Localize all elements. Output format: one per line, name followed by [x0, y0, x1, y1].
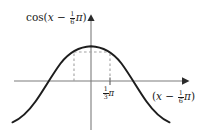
x-axis-label: (x − 16π)	[152, 90, 195, 105]
x-label-minus: −	[162, 90, 177, 102]
dashed-guides	[74, 52, 110, 81]
y-label-minus: −	[54, 11, 69, 23]
x-axis	[14, 77, 190, 84]
y-label-fraction: 16	[70, 11, 76, 26]
y-axis	[87, 14, 94, 130]
x-label-pi: π	[184, 90, 191, 102]
y-label-suffix: )	[83, 11, 87, 23]
y-label-pi: π	[76, 11, 83, 23]
x-label-fraction-denominator: 6	[178, 98, 184, 105]
cosine-graph-figure: cos(x − 16π) (x − 16π) 13π	[0, 0, 207, 136]
y-label-fraction-denominator: 6	[70, 19, 76, 26]
y-axis-arrowhead	[87, 14, 94, 21]
x-label-fraction: 16	[178, 90, 184, 105]
tick-pi: π	[109, 88, 115, 98]
x-label-suffix: )	[191, 90, 195, 102]
y-label-prefix: cos(	[26, 11, 48, 23]
x-tick-label-third-pi: 13π	[103, 86, 114, 100]
y-axis-label: cos(x − 16π)	[26, 11, 87, 26]
x-axis-arrowhead	[182, 77, 190, 84]
